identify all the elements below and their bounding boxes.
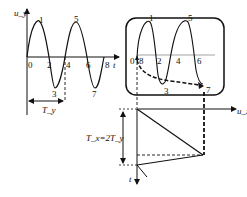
screen-label-3: 3: [164, 86, 169, 96]
screen-label-8: 8: [139, 56, 144, 66]
tx-period-label: T_x=2T_y: [86, 133, 124, 143]
screen-label-4: 4: [176, 56, 181, 66]
oscilloscope-screen: 0 8 1 2 3 4 5 6 7: [126, 13, 224, 96]
sweep-ramp: [137, 109, 203, 155]
screen-label-6: 6: [197, 56, 202, 66]
screen-label-2: 2: [157, 56, 162, 66]
tick-4: 4: [66, 60, 71, 70]
point-5: 5: [74, 14, 79, 24]
sweep-next-ramp: [137, 165, 147, 177]
uy-time-plot: u_y t 0 2 4 6 8 1 3 5 7 T_y: [14, 8, 119, 115]
sweep-flyback: [137, 155, 203, 165]
point-3: 3: [52, 89, 57, 99]
point-1: 1: [39, 15, 44, 25]
oscilloscope-diagram: u_y t 0 2 4 6 8 1 3 5 7 T_y 0 8 1 2 3 4 …: [0, 0, 247, 197]
ux-axis-label: u_x: [237, 106, 247, 116]
screen-label-1: 1: [149, 13, 154, 23]
sine-wave-uy: [27, 21, 104, 88]
screen-label-0: 0: [130, 56, 135, 66]
screen-trace: [137, 21, 203, 84]
ty-period-label: T_y: [42, 105, 56, 115]
tick-0: 0: [28, 60, 33, 70]
screen-label-5: 5: [188, 13, 193, 23]
tick-8: 8: [105, 60, 110, 70]
t-axis-down-label: t: [129, 174, 132, 184]
t-axis-label: t: [113, 60, 116, 70]
screen-label-7: 7: [206, 85, 211, 95]
tick-6: 6: [86, 60, 91, 70]
tick-2: 2: [47, 60, 52, 70]
uy-axis-label: u_y: [14, 8, 27, 18]
point-7: 7: [92, 89, 97, 99]
